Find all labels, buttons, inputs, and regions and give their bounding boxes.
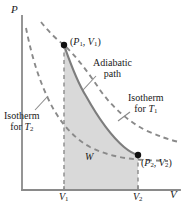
- pv-diagram-figure: P V V1 V2 (P1, V1) (P2, V2) Adiabatic pa…: [0, 0, 187, 211]
- v2-tick-label: V2: [133, 192, 143, 203]
- point-1-label: (P1, V1): [70, 37, 101, 48]
- isotherm-t1-line-2: for T1: [128, 104, 164, 115]
- adiabatic-line-2: path: [93, 69, 132, 80]
- isotherm-t1-label: Isotherm for T1: [128, 93, 164, 115]
- isotherm-t2-leader-line: [35, 96, 48, 110]
- v-axis-label: V: [170, 188, 177, 200]
- v2-subscript: 2: [139, 195, 142, 202]
- work-label: W: [85, 152, 93, 163]
- v1-tick-label: V1: [59, 192, 69, 203]
- point-2-label: (P2, V2): [141, 158, 172, 169]
- isotherm-t2-label: Isotherm for T2: [4, 111, 40, 133]
- isotherm-t1-curve: [41, 22, 179, 142]
- p-axis-label: P: [11, 3, 18, 15]
- isotherm-t2-line-2: for T2: [4, 122, 40, 133]
- point-1-marker: [61, 42, 67, 48]
- v1-subscript: 1: [65, 195, 68, 202]
- adiabatic-path-label: Adiabatic path: [93, 58, 132, 80]
